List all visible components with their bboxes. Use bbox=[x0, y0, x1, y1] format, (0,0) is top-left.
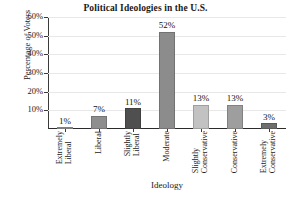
y-tick-label: 30% bbox=[27, 67, 43, 77]
y-tick-label: 10% bbox=[27, 104, 43, 114]
x-tick-label-line: Liberal bbox=[95, 131, 104, 154]
x-tick-label: Conservative bbox=[218, 131, 252, 179]
plot-area: 10%20%30%40%50%60% 1%7%11%52%13%13%3% bbox=[48, 17, 286, 129]
x-tick-label: Liberal bbox=[82, 131, 116, 179]
y-tick-label: 40% bbox=[27, 48, 43, 58]
x-tick-label-line: Conservative bbox=[269, 131, 278, 173]
bar[interactable] bbox=[227, 105, 243, 129]
bar-chart: Political Ideologies in the U.S. Percent… bbox=[0, 0, 291, 202]
bar-group[interactable]: 13% bbox=[193, 17, 209, 129]
bar-value-label: 7% bbox=[93, 104, 105, 114]
x-tick-label-line: Conservative bbox=[231, 131, 240, 173]
bar-group[interactable]: 3% bbox=[261, 17, 277, 129]
x-tick-label: SlightlyConservative bbox=[184, 131, 218, 179]
chart-title: Political Ideologies in the U.S. bbox=[0, 3, 291, 13]
x-tick-label: SlightlyLiberal bbox=[116, 131, 150, 179]
x-tick-label: Moderate bbox=[150, 131, 184, 179]
bar-value-label: 52% bbox=[159, 20, 176, 30]
bar[interactable] bbox=[91, 116, 107, 129]
bar-group[interactable]: 11% bbox=[125, 17, 141, 129]
bar-group[interactable]: 1% bbox=[57, 17, 73, 129]
bar[interactable] bbox=[125, 108, 141, 129]
bar-value-label: 13% bbox=[227, 93, 244, 103]
bar-value-label: 3% bbox=[263, 112, 275, 122]
x-tick-label: ExtremelyConservative bbox=[252, 131, 286, 179]
y-tick-label: 20% bbox=[27, 86, 43, 96]
bar-value-label: 11% bbox=[125, 97, 141, 107]
bar-group[interactable]: 7% bbox=[91, 17, 107, 129]
bar-value-label: 13% bbox=[193, 93, 210, 103]
x-tick-label: ExtremelyLiberal bbox=[48, 131, 82, 179]
x-tick-label-line: Liberal bbox=[133, 131, 142, 156]
x-tick-label-line: Conservative bbox=[201, 131, 210, 173]
y-tick-label: 50% bbox=[27, 30, 43, 40]
bar-group[interactable]: 13% bbox=[227, 17, 243, 129]
x-tick-label-line: Liberal bbox=[65, 131, 74, 164]
x-axis-labels: ExtremelyLiberalLiberalSlightlyLiberalMo… bbox=[48, 131, 286, 179]
bar[interactable] bbox=[159, 32, 175, 129]
bars-layer: 1%7%11%52%13%13%3% bbox=[48, 17, 286, 129]
y-tick-label: 60% bbox=[27, 11, 43, 21]
bar-group[interactable]: 52% bbox=[159, 17, 175, 129]
x-tick-label-line: Moderate bbox=[163, 131, 172, 162]
bar[interactable] bbox=[193, 105, 209, 129]
bar-value-label: 1% bbox=[59, 116, 71, 126]
x-axis-title: Ideology bbox=[48, 180, 286, 190]
